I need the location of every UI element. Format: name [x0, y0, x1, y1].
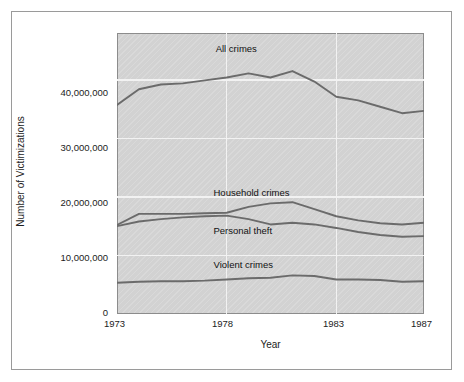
y-tick-10m: 10,000,000	[0, 253, 113, 263]
series-path-household-crimes	[117, 202, 424, 225]
x-tick-1978: 1978	[212, 318, 233, 329]
x-tick-1983: 1983	[323, 318, 344, 329]
x-axis-tick-labels: 1973 1978 1983 1987	[0, 318, 464, 334]
series-path-all-crimes	[117, 71, 424, 113]
series-path-violent-crimes	[117, 275, 424, 282]
y-axis-title: Number of Victimizations	[15, 92, 26, 252]
series-label-all-crimes: All crimes	[216, 43, 257, 54]
x-tick-1973: 1973	[104, 318, 125, 329]
y-tick-0: 0	[0, 308, 113, 318]
series-paths	[117, 71, 424, 283]
gridlines	[117, 33, 424, 314]
chart-lines	[117, 33, 424, 314]
x-tick-1987: 1987	[411, 318, 432, 329]
plot-area: All crimes Household crimes Personal the…	[117, 33, 424, 314]
series-label-violent-crimes: Violent crimes	[213, 259, 273, 270]
series-label-household-crimes: Household crimes	[213, 187, 289, 198]
chart-figure: 40,000,000 30,000,000 20,000,000 10,000,…	[0, 0, 464, 382]
x-axis-title: Year	[117, 339, 424, 350]
series-label-personal-theft: Personal theft	[213, 225, 272, 236]
